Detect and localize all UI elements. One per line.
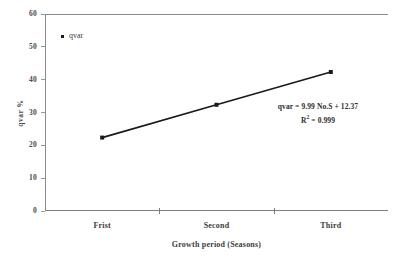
y-axis-tick-label: 10 — [29, 173, 37, 183]
y-axis-tick-label: 0 — [33, 206, 37, 216]
regression-equation: qvar = 9.99 No.S + 12.37 — [263, 101, 373, 112]
y-axis-tick-0: 0 — [5, 206, 45, 216]
y-axis-tick-50: 50 — [5, 42, 45, 52]
r-squared-value: = 0.999 — [309, 116, 335, 125]
legend-marker-icon — [61, 35, 64, 38]
x-axis-title: Growth period (Seasons) — [45, 240, 388, 249]
data-point-marker — [215, 103, 219, 107]
plot-area: 0 10 20 30 40 50 60 qvar % — [45, 14, 388, 211]
y-axis-tick-10: 10 — [5, 173, 45, 183]
y-axis-tick-20: 20 — [5, 140, 45, 150]
y-axis-title: qvar % — [16, 99, 25, 126]
y-axis-tick-label: 50 — [29, 42, 37, 52]
x-axis-label-third: Third — [320, 221, 341, 230]
regression-annotation: qvar = 9.99 No.S + 12.37 R2 = 0.999 — [263, 101, 373, 126]
y-axis-tick-label: 20 — [29, 140, 37, 150]
x-axis-label-second: Second — [204, 221, 230, 230]
chart-container: 0 10 20 30 40 50 60 qvar % — [0, 0, 397, 258]
y-axis-tick-40: 40 — [5, 75, 45, 85]
legend: qvar — [61, 32, 83, 40]
y-axis-tick-label: 60 — [29, 9, 37, 19]
legend-label-qvar: qvar — [69, 32, 83, 40]
y-axis-tick-label: 30 — [29, 108, 37, 118]
data-point-marker — [329, 70, 333, 74]
x-axis-label-first: Frist — [93, 221, 110, 230]
data-point-marker — [100, 136, 104, 140]
y-axis-tick-label: 40 — [29, 75, 37, 85]
y-axis-tick-60: 60 — [5, 9, 45, 19]
r-squared-line: R2 = 0.999 — [263, 112, 373, 126]
